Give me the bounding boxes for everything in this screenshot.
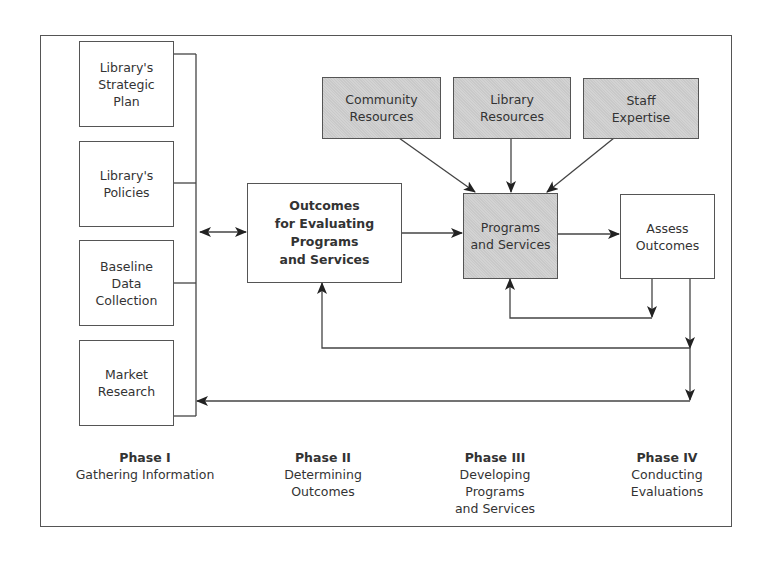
phase-2-desc: Determining Outcomes — [258, 466, 388, 500]
node-assess-outcomes: Assess Outcomes — [620, 194, 715, 279]
node-community-resources: Community Resources — [322, 77, 441, 139]
phase-1-desc: Gathering Information — [70, 466, 220, 483]
phase-2-title: Phase II — [258, 449, 388, 466]
node-market-research: Market Research — [79, 340, 174, 426]
arrow-feedback-to-outcomes — [322, 283, 690, 348]
node-baseline-data: Baseline Data Collection — [79, 240, 174, 326]
phase-3-label: Phase III Developing Programs and Servic… — [430, 449, 560, 517]
phase-4-desc: Conducting Evaluations — [602, 466, 732, 500]
node-staff-expertise: Staff Expertise — [583, 78, 699, 139]
node-programs-services: Programs and Services — [463, 193, 558, 279]
phase-1-label: Phase I Gathering Information — [70, 449, 220, 483]
phase-4-title: Phase IV — [602, 449, 732, 466]
phase-3-title: Phase III — [430, 449, 560, 466]
node-library-resources: Library Resources — [453, 77, 571, 139]
arrow-community-programs — [399, 138, 475, 192]
phase-4-label: Phase IV Conducting Evaluations — [602, 449, 732, 500]
phase-1-title: Phase I — [70, 449, 220, 466]
arrow-staff-programs — [547, 138, 614, 192]
arrow-feedback-to-programs — [510, 279, 652, 318]
node-strategic-plan: Library's Strategic Plan — [79, 41, 174, 127]
phase-2-label: Phase II Determining Outcomes — [258, 449, 388, 500]
node-outcomes: Outcomes for Evaluating Programs and Ser… — [247, 183, 402, 283]
node-policies: Library's Policies — [79, 141, 174, 227]
phase-3-desc: Developing Programs and Services — [430, 466, 560, 517]
